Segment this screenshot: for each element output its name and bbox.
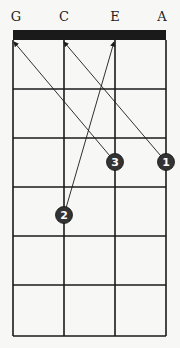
nut [13, 30, 166, 40]
finger-marker-1: 1 [158, 154, 175, 171]
finger-marker-3: 3 [107, 154, 124, 171]
arrow-icon [64, 42, 114, 215]
string-labels: GCEA [11, 9, 168, 24]
finger-marker-2: 2 [56, 207, 73, 224]
string-label-e: E [110, 9, 120, 24]
string-label-g: G [11, 9, 21, 24]
fretboard-grid [13, 30, 166, 336]
finger-arrows [14, 42, 166, 215]
string-label-a: A [156, 9, 167, 24]
finger-number: 1 [162, 156, 170, 169]
finger-number: 2 [60, 209, 68, 222]
finger-number: 3 [111, 156, 119, 169]
chord-diagram: GCEA 123 [0, 0, 180, 348]
string-label-c: C [59, 9, 69, 24]
